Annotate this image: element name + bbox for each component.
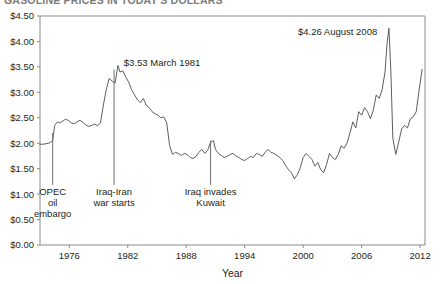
annotation-label-iraq-iran: war starts [92, 197, 134, 208]
plot-frame [40, 16, 425, 245]
annotation-label-iraq-kuwait: Kuwait [196, 197, 225, 208]
callout-peak-1981: $3.53 March 1981 [124, 57, 201, 68]
x-tick-label: 1982 [117, 250, 138, 261]
y-tick-label: $4.50 [10, 10, 34, 21]
x-tick-label: 1976 [59, 250, 80, 261]
y-tick-label: $3.50 [10, 61, 34, 72]
y-tick-label: $0.50 [10, 214, 34, 225]
annotation-label-iraq-iran: Iraq-Iran [96, 186, 132, 197]
y-tick-label: $1.50 [10, 163, 34, 174]
annotation-label-iraq-kuwait: Iraq invades [185, 186, 237, 197]
x-tick-label: 1988 [176, 250, 197, 261]
y-tick-label: $2.50 [10, 112, 34, 123]
callout-peak-2008: $4.26 August 2008 [298, 26, 377, 37]
x-tick-label: 2000 [293, 250, 314, 261]
x-tick-label: 1994 [234, 250, 255, 261]
y-tick-label: $4.00 [10, 36, 34, 47]
annotation-label-opec: oil [48, 197, 58, 208]
annotation-label-opec: OPEC [39, 186, 66, 197]
y-tick-label: $3.00 [10, 87, 34, 98]
y-tick-label: $1.00 [10, 189, 34, 200]
x-tick-label: 2012 [410, 250, 431, 261]
plot-area: $0.00$0.50$1.00$1.50$2.00$2.50$3.00$3.50… [0, 0, 443, 284]
x-axis-title: Year [222, 267, 244, 279]
gasoline-price-chart: GASOLINE PRICES IN TODAY'S DOLLARS $0.00… [0, 0, 443, 284]
y-tick-label: $0.00 [10, 239, 34, 250]
price-series-line [40, 28, 422, 179]
y-tick-label: $2.00 [10, 138, 34, 149]
annotation-label-opec: embargo [34, 208, 72, 219]
x-tick-label: 2006 [351, 250, 372, 261]
